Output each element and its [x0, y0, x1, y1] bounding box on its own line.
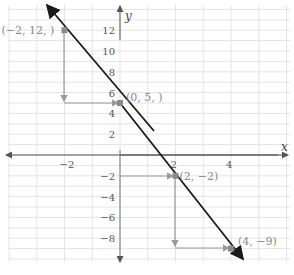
y-tick-label: 8 — [109, 67, 115, 78]
point-label: (2, −2) — [180, 170, 219, 183]
grid — [8, 5, 290, 262]
point-label: (−2, 12, ) — [2, 24, 55, 37]
y-tick-label: 10 — [102, 46, 115, 57]
y-tick-label: 2 — [109, 129, 115, 140]
y-axis-label: y — [124, 9, 132, 23]
step-arrows — [64, 30, 229, 248]
data-point — [62, 27, 68, 33]
x-tick-label: 4 — [226, 159, 232, 170]
y-tick-label: −2 — [100, 171, 115, 182]
data-line — [47, 5, 154, 131]
data-point — [117, 100, 123, 106]
x-axis-label: x — [281, 140, 288, 154]
y-tick-label: −4 — [100, 192, 115, 203]
data-point — [228, 246, 234, 252]
y-tick-label: 12 — [102, 25, 115, 36]
data-point — [173, 173, 179, 179]
line-chart: x y −22412108642−2−4−6−8 (−2, 12, )(0, 5… — [0, 0, 294, 275]
y-tick-label: 4 — [109, 108, 115, 119]
y-tick-label: −6 — [100, 212, 115, 223]
point-label: (0, 5, ) — [126, 91, 163, 104]
y-tick-label: 6 — [109, 88, 115, 99]
x-tick-label: −2 — [60, 159, 75, 170]
point-label: (4, −9) — [238, 235, 277, 248]
y-tick-label: −8 — [100, 233, 115, 244]
